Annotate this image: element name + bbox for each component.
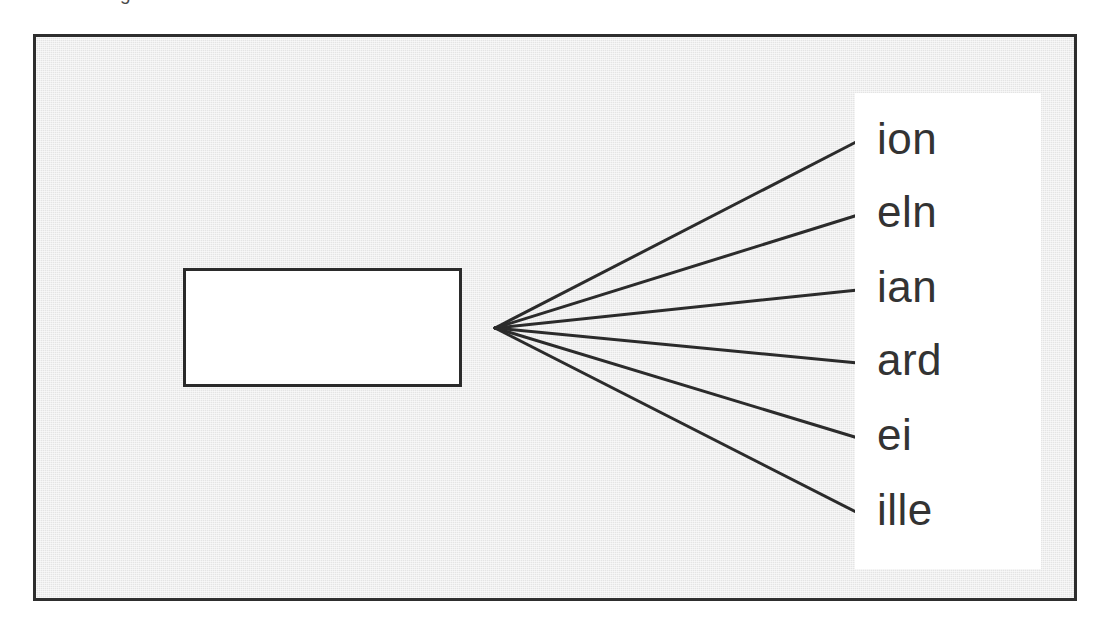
label-item-2: eln xyxy=(877,190,937,234)
figure-page: g ionelnianardeiille xyxy=(0,0,1111,634)
label-item-4: ard xyxy=(877,338,942,382)
connector-lines xyxy=(495,141,858,513)
source-node-box xyxy=(183,268,462,387)
label-panel: ionelnianardeiille xyxy=(855,93,1041,569)
connector-4 xyxy=(495,328,858,363)
label-item-3: ian xyxy=(877,265,937,309)
connector-3 xyxy=(495,290,858,328)
label-item-5: ei xyxy=(877,413,912,457)
label-item-1: ion xyxy=(877,117,937,161)
figure-frame: ionelnianardeiille xyxy=(33,34,1077,601)
connector-1 xyxy=(495,141,858,328)
caption-remnant: g xyxy=(0,0,1111,7)
connector-6 xyxy=(495,328,858,513)
caption-remnant-text: g xyxy=(120,0,131,5)
connector-5 xyxy=(495,328,858,438)
label-item-6: ille xyxy=(877,488,933,532)
connector-2 xyxy=(495,215,858,328)
